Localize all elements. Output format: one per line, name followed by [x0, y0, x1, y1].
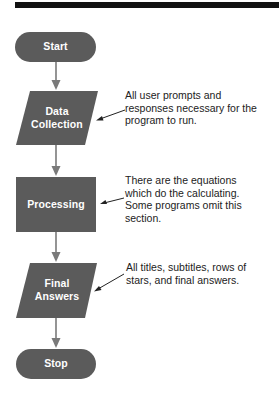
connector-start-to-data-collection	[52, 62, 61, 90]
data-collection-label-line-2: Collection	[18, 118, 96, 131]
annotation-arrow-processing	[100, 198, 124, 204]
start-label: Start	[15, 40, 96, 53]
annotation-final-answers: All titles, subtitles, rows of stars, an…	[126, 261, 246, 286]
final-answers-label-line-1: Final	[18, 277, 96, 290]
annotation-line: All user prompts and	[125, 89, 257, 102]
annotation-line: section.	[125, 212, 242, 225]
annotation-arrow-data-collection	[96, 110, 125, 121]
annotation-arrow-final-answers	[94, 274, 124, 292]
annotation-line: which do the calculating.	[125, 187, 242, 200]
annotation-line: Some programs omit this	[125, 199, 242, 212]
stop-label: Stop	[16, 357, 96, 370]
connector-final-answers-to-stop	[52, 318, 61, 348]
annotation-data-collection: All user prompts and responses necessary…	[125, 89, 257, 127]
processing-label: Processing	[16, 198, 96, 211]
data-collection-label: Data Collection	[18, 105, 96, 131]
annotation-line: responses necessary for the	[125, 102, 257, 115]
annotation-line: There are the equations	[125, 174, 242, 187]
annotation-line: stars, and final answers.	[126, 274, 246, 287]
annotation-line: All titles, subtitles, rows of	[126, 261, 246, 274]
annotation-line: program to run.	[125, 114, 257, 127]
final-answers-label: Final Answers	[18, 277, 96, 303]
final-answers-label-line-2: Answers	[18, 290, 96, 303]
connector-processing-to-final-answers	[52, 232, 61, 262]
annotation-processing: There are the equations which do the cal…	[125, 174, 242, 224]
data-collection-label-line-1: Data	[18, 105, 96, 118]
connector-data-collection-to-processing	[52, 145, 61, 176]
